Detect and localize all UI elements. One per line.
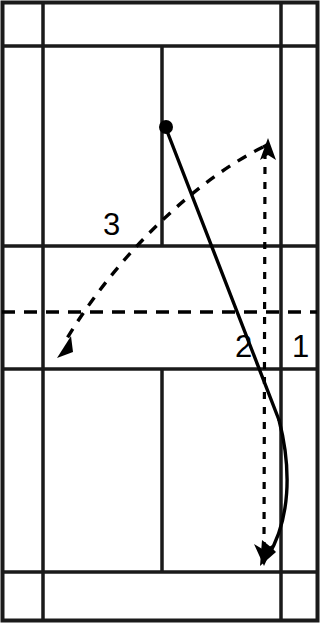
trajectory-label-1: 1 [292, 329, 309, 364]
trajectory-label-3: 3 [103, 207, 120, 242]
trajectory-label-2: 2 [235, 329, 252, 364]
court-diagram-canvas: 3 2 1 [0, 0, 320, 627]
badminton-court-diagram: 3 2 1 [0, 0, 320, 627]
hitting-point-dot [159, 120, 173, 134]
